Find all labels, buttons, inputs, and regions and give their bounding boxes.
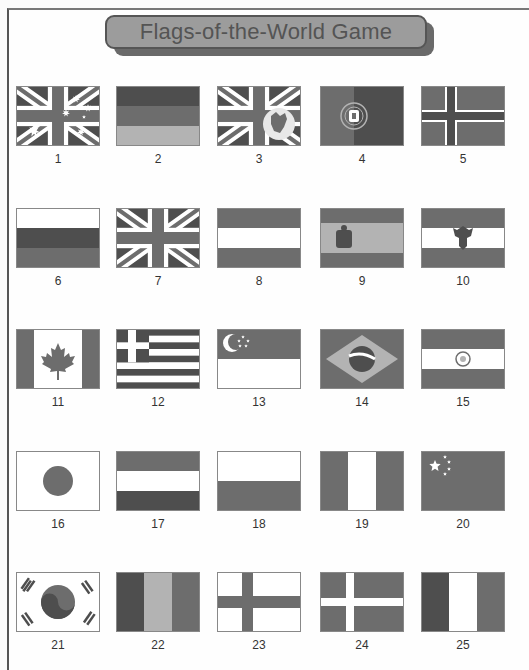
flag-number-label: 25 — [421, 638, 505, 652]
flag-singapore-image — [217, 329, 301, 389]
flag-item: 9 — [320, 208, 406, 288]
flag-number-label: 4 — [320, 152, 404, 166]
flag-number-label: 21 — [16, 638, 100, 652]
flag-number-label: 6 — [16, 274, 100, 288]
flag-number-label: 5 — [421, 152, 505, 166]
flag-number-label: 8 — [217, 274, 301, 288]
flag-number-label: 16 — [16, 517, 100, 531]
flag-item: 15 — [421, 329, 507, 409]
flag-japan-image — [16, 451, 100, 511]
flag-item: 22 — [116, 572, 202, 652]
flag-item: 8 — [217, 208, 303, 288]
flag-horizontal-dark-white-dark-image — [116, 451, 200, 511]
flag-item: 20 — [421, 451, 507, 531]
flag-item: 19 — [320, 451, 406, 531]
flag-item: 10 — [421, 208, 507, 288]
flag-vertical-dark-light-dark-image — [116, 572, 200, 632]
flag-united-kingdom-image — [116, 208, 200, 268]
flag-russia-image — [16, 208, 100, 268]
flag-horizontal-red-white-red-image — [217, 208, 301, 268]
flag-india-like-image — [421, 329, 505, 389]
flag-number-label: 10 — [421, 274, 505, 288]
flag-item: 25 — [421, 572, 507, 652]
flag-item: 5 — [421, 86, 507, 166]
flag-item: 1 — [16, 86, 102, 166]
flag-number-label: 7 — [116, 274, 200, 288]
flag-poland-image — [217, 451, 301, 511]
flag-item: 7 — [116, 208, 202, 288]
flag-number-label: 19 — [320, 517, 404, 531]
flag-item: 14 — [320, 329, 406, 409]
title-banner: Flags-of-the-World Game — [105, 15, 427, 49]
flag-number-label: 11 — [16, 395, 100, 409]
flag-south-korea-image — [16, 572, 100, 632]
page-title: Flags-of-the-World Game — [140, 19, 392, 45]
flag-denmark-image — [320, 572, 404, 632]
flag-item: 6 — [16, 208, 102, 288]
flag-item: 18 — [217, 451, 303, 531]
flag-australia-image — [16, 86, 100, 146]
flag-number-label: 24 — [320, 638, 404, 652]
flag-item: 4 — [320, 86, 406, 166]
flag-number-label: 15 — [421, 395, 505, 409]
flag-norway-image — [421, 86, 505, 146]
flag-number-label: 17 — [116, 517, 200, 531]
flag-canada-image — [16, 329, 100, 389]
flag-item: 11 — [16, 329, 102, 409]
flag-spain-image — [320, 208, 404, 268]
flag-vertical-dark-white-dark-2-image — [421, 572, 505, 632]
flag-hong-kong-colonial-image — [217, 86, 301, 146]
flag-number-label: 2 — [116, 152, 200, 166]
flag-number-label: 23 — [217, 638, 301, 652]
flag-item: 17 — [116, 451, 202, 531]
flag-number-label: 20 — [421, 517, 505, 531]
flag-number-label: 3 — [217, 152, 301, 166]
flag-item: 12 — [116, 329, 202, 409]
flag-germany-image — [116, 86, 200, 146]
flag-number-label: 14 — [320, 395, 404, 409]
flag-number-label: 12 — [116, 395, 200, 409]
flag-item: 24 — [320, 572, 406, 652]
flag-item: 2 — [116, 86, 202, 166]
flag-number-label: 18 — [217, 517, 301, 531]
flag-item: 16 — [16, 451, 102, 531]
flag-number-label: 13 — [217, 395, 301, 409]
flag-item: 21 — [16, 572, 102, 652]
flag-number-label: 22 — [116, 638, 200, 652]
flag-finland-image — [217, 572, 301, 632]
flag-vertical-dark-white-dark-image — [320, 451, 404, 511]
flag-china-image — [421, 451, 505, 511]
flag-item: 23 — [217, 572, 303, 652]
flag-greece-image — [116, 329, 200, 389]
flag-portugal-image — [320, 86, 404, 146]
flag-number-label: 9 — [320, 274, 404, 288]
flag-brazil-image — [320, 329, 404, 389]
flag-item: 3 — [217, 86, 303, 166]
flag-item: 13 — [217, 329, 303, 409]
flag-austria-eagle-image — [421, 208, 505, 268]
flag-number-label: 1 — [16, 152, 100, 166]
